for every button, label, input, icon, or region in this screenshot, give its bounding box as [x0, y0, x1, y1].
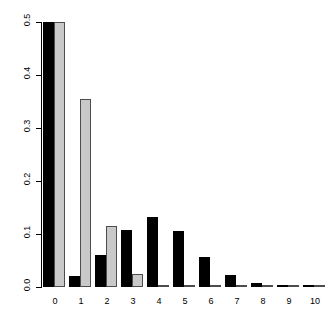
x-axis-tick-label: 1 [68, 296, 94, 306]
bar-group [303, 22, 329, 287]
bar-group [147, 22, 173, 287]
bar-series-1-9 [277, 285, 288, 287]
x-axis-tick-label: 6 [198, 296, 224, 306]
bar-series-2-9 [288, 285, 299, 287]
bar-group [251, 22, 277, 287]
bar-series-2-5 [184, 285, 195, 287]
y-axis-tick [36, 234, 41, 235]
y-axis-tick-label: 0.2 [0, 174, 34, 184]
y-axis-tick [36, 287, 41, 288]
bar-series-1-5 [173, 231, 184, 287]
bar-series-2-8 [262, 285, 273, 287]
figure-title-cropped [0, 0, 332, 9]
y-axis-tick-label: 0.3 [0, 121, 34, 131]
bar-series-2-0 [54, 22, 65, 287]
x-axis-tick-label: 0 [42, 296, 68, 306]
y-axis-tick-label: 0.0 [0, 280, 34, 290]
bar-series-2-1 [80, 99, 91, 287]
bar-series-1-7 [225, 275, 236, 287]
y-axis-tick [36, 75, 41, 76]
x-axis-tick-label: 3 [120, 296, 146, 306]
y-axis-tick-label: 0.1 [0, 227, 34, 237]
bar-series-1-6 [199, 257, 210, 287]
y-axis-tick-label: 0.4 [0, 68, 34, 78]
bar-group [121, 22, 147, 287]
bar-series-1-1 [69, 276, 80, 287]
bar-series-2-3 [132, 274, 143, 287]
bar-series-2-2 [106, 226, 117, 287]
x-axis-tick-label: 9 [276, 296, 302, 306]
bar-group [173, 22, 199, 287]
x-axis-tick-label: 7 [224, 296, 250, 306]
bar-series-1-4 [147, 217, 158, 287]
bar-series-1-0 [43, 22, 54, 287]
y-axis-tick [36, 128, 41, 129]
x-axis-tick-label: 8 [250, 296, 276, 306]
bar-group [277, 22, 303, 287]
y-axis-tick-label: 0.5 [0, 15, 34, 25]
x-axis-tick-label: 10 [302, 296, 328, 306]
x-axis-tick-label: 5 [172, 296, 198, 306]
bar-group [43, 22, 69, 287]
x-axis-tick-label: 2 [94, 296, 120, 306]
x-axis-tick-label: 4 [146, 296, 172, 306]
bar-series-2-4 [158, 285, 169, 287]
bar-series-1-2 [95, 255, 106, 287]
bar-series-2-10 [314, 285, 325, 287]
bar-series-2-6 [210, 285, 221, 287]
plot-area [42, 22, 328, 287]
bar-group [95, 22, 121, 287]
bar-group [199, 22, 225, 287]
bar-group [225, 22, 251, 287]
bar-chart-figure: 0.00.10.20.30.40.5 012345678910 [0, 0, 332, 324]
bar-group [69, 22, 95, 287]
bar-series-1-8 [251, 283, 262, 287]
y-axis-tick [36, 22, 41, 23]
bar-series-2-7 [236, 285, 247, 287]
bar-series-1-3 [121, 230, 132, 287]
y-axis-tick [36, 181, 41, 182]
bar-series-1-10 [303, 285, 314, 287]
